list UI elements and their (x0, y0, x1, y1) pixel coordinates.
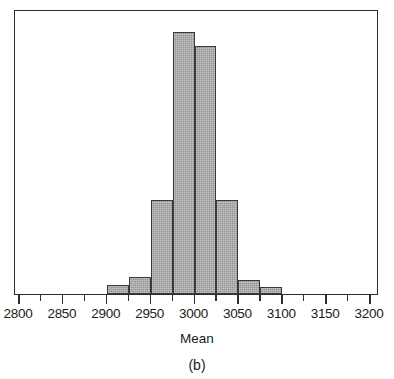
histogram-bar (216, 200, 238, 294)
x-axis-title: Mean (0, 331, 394, 346)
histogram-figure: 280028502900295030003050310031503200 Mea… (0, 0, 394, 379)
x-axis-tick-label: 3000 (179, 306, 208, 321)
x-axis-tick (281, 295, 283, 304)
x-axis-tick (325, 295, 327, 304)
histogram-bar (260, 287, 282, 294)
x-axis-tick-label: 3200 (355, 306, 384, 321)
histogram-bar (129, 277, 151, 294)
histogram-bar (107, 285, 129, 294)
x-axis-tick-label: 3050 (223, 306, 252, 321)
x-axis-tick (106, 295, 108, 304)
x-axis-minor-tick (84, 295, 85, 301)
histogram-bar (173, 32, 195, 294)
x-axis-tick (194, 295, 196, 304)
x-axis-minor-tick (347, 295, 348, 301)
x-axis-minor-tick (128, 295, 129, 301)
x-axis-minor-tick (303, 295, 304, 301)
x-axis-tick (18, 295, 20, 304)
x-axis-tick-label: 3150 (311, 306, 340, 321)
x-axis-tick-label: 2850 (47, 306, 76, 321)
x-axis-tick (369, 295, 371, 304)
histogram-bar (195, 46, 217, 294)
x-axis-tick (62, 295, 64, 304)
x-axis-tick-label: 2900 (91, 306, 120, 321)
x-axis-tick-label: 2800 (4, 306, 33, 321)
x-axis-tick-label: 2950 (135, 306, 164, 321)
x-axis-tick (237, 295, 239, 304)
bars-layer (15, 11, 377, 294)
histogram-bar (238, 280, 260, 294)
histogram-bar (151, 200, 173, 294)
x-axis-tick-label: 3100 (267, 306, 296, 321)
x-axis-minor-tick (40, 295, 41, 301)
panel-label: (b) (0, 357, 394, 373)
plot-frame (14, 10, 378, 295)
x-axis-minor-tick (259, 295, 260, 301)
x-axis-minor-tick (215, 295, 216, 301)
x-axis-tick (150, 295, 152, 304)
x-axis-minor-tick (172, 295, 173, 301)
